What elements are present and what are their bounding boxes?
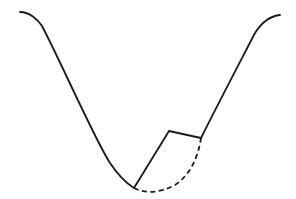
dashed-original-curve <box>134 138 201 192</box>
right-valley-curve <box>201 15 280 138</box>
left-valley-curve <box>20 12 134 188</box>
valley-diagram <box>0 0 296 199</box>
notch-polyline <box>134 131 201 188</box>
